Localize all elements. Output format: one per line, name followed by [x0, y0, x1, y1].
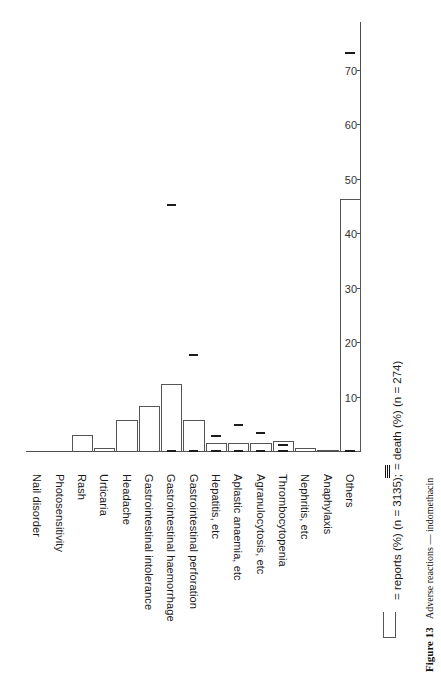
category-label: Aplastic anaemia, etc [232, 474, 244, 581]
bar-death [167, 204, 176, 452]
bar-death [278, 444, 287, 452]
bar-death [234, 424, 243, 452]
category-label: Urticaria [98, 474, 110, 516]
category-label: Hepatitis, etc [210, 474, 222, 539]
reports-swatch-icon [383, 612, 396, 638]
bar-death [256, 432, 265, 452]
axis-tick [357, 124, 361, 125]
bar-reports [116, 420, 137, 452]
bar-reports [94, 448, 115, 452]
legend-death-label: = death (%) (n = 274) [391, 361, 403, 470]
figure-caption: Figure 13 Adverse reactions — indomethac… [409, 0, 439, 685]
figure-container: 10203040506070 Nail disorderPhotosensiti… [0, 0, 441, 685]
plot-canvas: 10203040506070 [26, 22, 361, 452]
death-swatch-icon [385, 465, 388, 478]
bar-reports [72, 435, 93, 452]
category-label: Headache [121, 474, 133, 525]
category-label: Photosensitivity [54, 474, 66, 552]
category-label: Nephritis, etc [299, 474, 311, 540]
axis-tick [357, 70, 361, 71]
bar-death [345, 52, 354, 452]
category-label: Agranulocytosis, etc [255, 474, 267, 574]
category-label: Gastrointestinal haemorrhage [165, 474, 177, 622]
bar-death [189, 354, 198, 452]
category-label: Thrombocytopenia [277, 474, 289, 567]
category-label: Gastrointestinal perforation [188, 474, 200, 609]
category-label: Others [344, 474, 356, 508]
category-label: Anaphylaxis [322, 474, 334, 534]
caption-label: Figure 13 [423, 627, 435, 672]
legend-reports-label: = reports (%) (n = 3135); [391, 474, 403, 600]
bar-reports [295, 448, 316, 452]
bar-death [211, 435, 220, 452]
axis-tick [357, 179, 361, 180]
bar-reports [139, 406, 160, 452]
bar-reports [317, 450, 338, 452]
category-label: Rash [76, 474, 88, 500]
chart-plot-area: 10203040506070 [26, 22, 361, 452]
caption-text: Adverse reactions — indomethacin [424, 478, 435, 619]
category-label: Gastrointestinal intolerance [143, 474, 155, 610]
category-label: Nail disorder [31, 474, 43, 537]
